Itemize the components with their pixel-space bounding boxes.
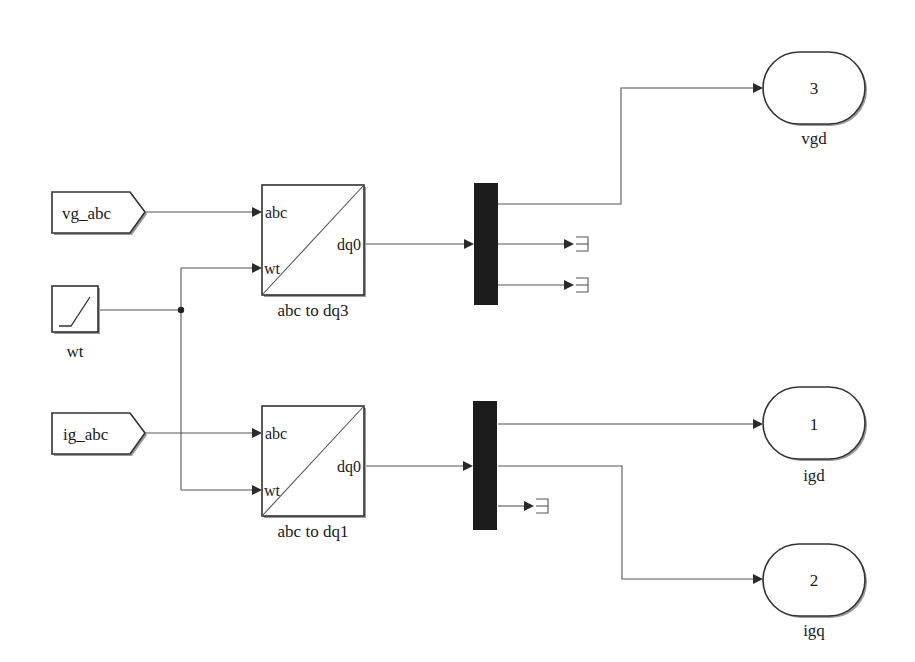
- outport-igq[interactable]: 2 igq: [763, 544, 867, 640]
- from-tag-label: ig_abc: [63, 425, 109, 444]
- terminator-icon[interactable]: [576, 278, 588, 292]
- wire-vgd: [498, 88, 753, 204]
- diagram-canvas: vg_abc ig_abc wt abc wt dq0 abc to dq3 a…: [0, 0, 915, 662]
- branch-junction-dot: [178, 307, 184, 313]
- demux-current[interactable]: [473, 401, 497, 530]
- outport-label: vgd: [801, 129, 827, 148]
- ramp-block-wt[interactable]: wt: [52, 286, 100, 361]
- outport-number: 1: [810, 415, 819, 434]
- ramp-label: wt: [67, 342, 84, 361]
- terminator-icon[interactable]: [536, 499, 548, 513]
- from-tag-ig-abc[interactable]: ig_abc: [52, 413, 147, 456]
- port-abc-label: abc: [265, 425, 287, 442]
- abc-to-dq3-block[interactable]: abc wt dq0 abc to dq3: [262, 185, 366, 320]
- outport-igd[interactable]: 1 igd: [763, 387, 867, 485]
- outport-label: igq: [803, 621, 825, 640]
- port-wt-label: wt: [264, 482, 281, 499]
- outport-label: igd: [803, 466, 825, 485]
- block-name: abc to dq3: [278, 301, 349, 320]
- block-name: abc to dq1: [278, 522, 349, 541]
- terminators: [536, 237, 588, 513]
- port-dq0-label: dq0: [337, 236, 361, 254]
- terminator-icon[interactable]: [576, 237, 588, 251]
- outport-number: 2: [810, 571, 819, 590]
- wire-igq: [498, 466, 753, 579]
- demux-voltage[interactable]: [474, 183, 498, 305]
- from-tag-vg-abc[interactable]: vg_abc: [52, 192, 147, 235]
- outport-vgd[interactable]: 3 vgd: [763, 52, 867, 148]
- wires: [100, 88, 753, 579]
- port-wt-label: wt: [264, 260, 281, 277]
- from-tag-label: vg_abc: [62, 204, 112, 223]
- abc-to-dq1-block[interactable]: abc wt dq0 abc to dq1: [262, 406, 366, 541]
- port-dq0-label: dq0: [337, 458, 361, 476]
- port-abc-label: abc: [265, 204, 287, 221]
- outport-number: 3: [810, 79, 819, 98]
